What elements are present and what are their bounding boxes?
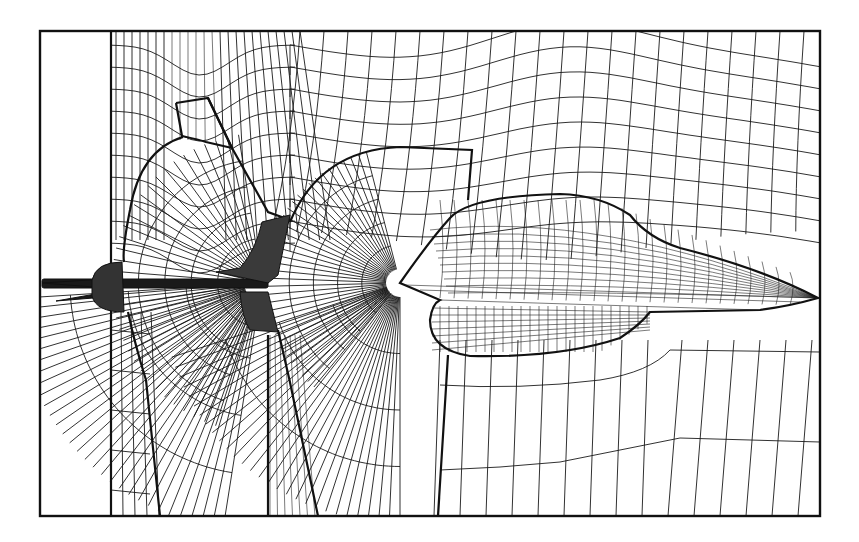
tail-cone — [92, 262, 124, 312]
fuselage-outline — [400, 194, 818, 356]
grid-lines — [13, 22, 821, 530]
vertical-tail-lower — [240, 292, 278, 332]
mesh-diagram — [0, 0, 859, 542]
mesh-svg — [0, 0, 859, 542]
